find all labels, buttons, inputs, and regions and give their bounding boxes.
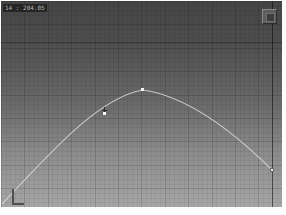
page-edge-bottom — [0, 207, 286, 215]
mouse-cursor-icon — [101, 107, 109, 116]
apex-keyframe-dot[interactable] — [141, 88, 144, 91]
screenshot-stage: 14 : 204.05 — [0, 0, 286, 215]
trajectory-path[interactable] — [2, 90, 273, 204]
coordinate-readout: 14 : 204.05 — [3, 4, 47, 12]
end-handle-square[interactable] — [270, 168, 274, 172]
trajectory-curve — [1, 1, 282, 207]
3d-viewport[interactable] — [1, 1, 282, 207]
viewport-corner-button[interactable] — [262, 9, 277, 24]
page-edge-right — [282, 0, 286, 215]
axis-gizmo-icon — [10, 189, 24, 206]
corner-button-glyph — [266, 13, 275, 22]
